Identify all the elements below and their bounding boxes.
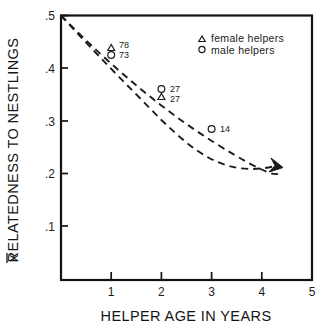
legend-circle-icon [199, 46, 205, 52]
point-label-female-age1: 78 [119, 40, 129, 50]
data-point-female-age2 [158, 94, 165, 100]
x-tick-label-1: 1 [108, 285, 115, 299]
chart-figure: .5 .4 .3 .2 .1 1 2 3 4 5 78 73 27 27 14 [0, 0, 333, 331]
point-label-male-age1: 73 [119, 50, 129, 60]
point-label-male-age2: 27 [170, 84, 180, 94]
legend-triangle-icon [199, 36, 205, 42]
trend-arrowhead [269, 158, 283, 172]
x-tick-label-4: 4 [258, 285, 265, 299]
legend-label-female: female helpers [211, 32, 284, 44]
chart-legend: female helpers male helpers [199, 32, 284, 56]
data-point-male-age1 [108, 52, 115, 59]
y-axis-title: RELATEDNESS TO NESTLINGS [5, 38, 21, 263]
y-tick-label-2: .3 [45, 115, 55, 129]
x-tick-label-5: 5 [309, 285, 316, 299]
series-female-helpers [108, 45, 165, 100]
y-tick-label-3: .2 [45, 167, 55, 181]
y-tick-label-1: .4 [45, 62, 55, 76]
y-axis-title-group: RELATEDNESS TO NESTLINGS [5, 38, 21, 263]
data-point-male-age2 [158, 86, 165, 93]
point-label-female-age2: 27 [170, 94, 180, 104]
x-axis-title: HELPER AGE IN YEARS [101, 308, 272, 324]
x-tick-label-3: 3 [208, 285, 215, 299]
y-tick-label-4: .1 [45, 220, 55, 234]
x-tick-label-2: 2 [158, 285, 165, 299]
data-point-female-age1 [108, 45, 115, 51]
y-axis-mean-symbol-group: x [5, 253, 21, 263]
relatedness-vs-helper-age-chart: .5 .4 .3 .2 .1 1 2 3 4 5 78 73 27 27 14 [0, 0, 333, 331]
data-point-male-age3 [208, 126, 215, 133]
legend-label-male: male helpers [211, 44, 275, 56]
x-axis-ticks [111, 272, 262, 280]
y-tick-label-0: .5 [45, 9, 55, 23]
point-label-male-age3: 14 [220, 124, 230, 134]
